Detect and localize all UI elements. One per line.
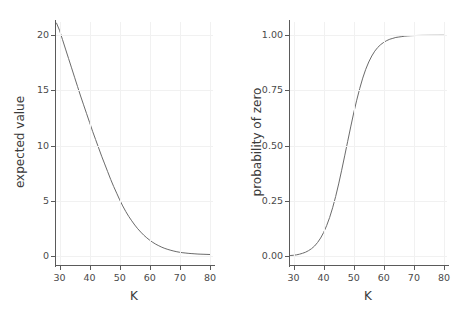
x-tick-mark: [120, 266, 121, 270]
x-tick-label: 50: [348, 273, 360, 283]
x-tick-label: 70: [174, 273, 186, 283]
y-tick-mark: [51, 146, 55, 147]
x-tick-label: 40: [84, 273, 96, 283]
grid-line-horizontal: [55, 90, 213, 91]
grid-line-horizontal: [289, 90, 447, 91]
grid-line-vertical: [294, 22, 295, 265]
plot-area-right: [289, 22, 447, 265]
y-axis-label-left: expected value: [14, 82, 26, 202]
grid-line-vertical: [150, 22, 151, 265]
x-tick-mark: [384, 266, 385, 270]
y-tick-mark: [285, 256, 289, 257]
x-axis-spine-left: [55, 265, 215, 266]
x-axis-label-left: K: [55, 290, 213, 302]
y-tick-label: 0: [43, 251, 49, 261]
grid-line-horizontal: [289, 35, 447, 36]
x-tick-label: 80: [204, 273, 216, 283]
grid-line-horizontal: [55, 256, 213, 257]
x-tick-label: 30: [53, 273, 65, 283]
x-tick-mark: [324, 266, 325, 270]
grid-line-vertical: [90, 22, 91, 265]
y-tick-mark: [285, 201, 289, 202]
x-axis-label-right: K: [289, 290, 447, 302]
y-tick-label: 1.00: [262, 31, 283, 41]
y-tick-label: 15: [37, 86, 49, 96]
x-tick-label: 80: [438, 273, 450, 283]
grid-line-horizontal: [289, 201, 447, 202]
grid-line-vertical: [180, 22, 181, 265]
x-tick-mark: [90, 266, 91, 270]
y-tick-mark: [285, 90, 289, 91]
grid-line-vertical: [384, 22, 385, 265]
chart-panel-expected-value: K expected value 30405060708005101520: [0, 0, 234, 317]
x-axis-spine-right: [289, 265, 449, 266]
grid-line-horizontal: [55, 35, 213, 36]
y-tick-mark: [51, 256, 55, 257]
x-tick-mark: [414, 266, 415, 270]
y-axis-spine-left: [55, 20, 56, 267]
probability-of-zero-curve: [289, 22, 447, 265]
grid-line-vertical: [414, 22, 415, 265]
x-tick-mark: [210, 266, 211, 270]
plot-area-left: [55, 22, 213, 265]
grid-line-vertical: [354, 22, 355, 265]
y-tick-label: 5: [43, 196, 49, 206]
x-tick-mark: [180, 266, 181, 270]
grid-line-horizontal: [289, 146, 447, 147]
y-tick-mark: [51, 90, 55, 91]
x-tick-label: 60: [144, 273, 156, 283]
grid-line-vertical: [210, 22, 211, 265]
grid-line-vertical: [444, 22, 445, 265]
x-tick-mark: [60, 266, 61, 270]
y-tick-mark: [285, 146, 289, 147]
y-tick-label: 0.75: [262, 86, 283, 96]
grid-line-horizontal: [55, 201, 213, 202]
expected-value-curve: [55, 22, 213, 265]
figure-canvas: K expected value 30405060708005101520 K …: [0, 0, 468, 317]
x-tick-label: 50: [114, 273, 126, 283]
y-tick-label: 0.00: [262, 251, 283, 261]
chart-panel-probability-of-zero: K probability of zero 3040506070800.000.…: [234, 0, 468, 317]
y-tick-mark: [285, 35, 289, 36]
y-tick-mark: [51, 201, 55, 202]
x-tick-mark: [150, 266, 151, 270]
grid-line-vertical: [324, 22, 325, 265]
y-tick-label: 20: [37, 31, 49, 41]
x-tick-mark: [294, 266, 295, 270]
grid-line-horizontal: [289, 256, 447, 257]
x-tick-label: 70: [408, 273, 420, 283]
y-axis-spine-right: [289, 20, 290, 267]
y-tick-label: 0.25: [262, 196, 283, 206]
y-tick-label: 0.50: [262, 141, 283, 151]
x-tick-mark: [444, 266, 445, 270]
grid-line-vertical: [120, 22, 121, 265]
x-tick-label: 40: [318, 273, 330, 283]
y-tick-label: 10: [37, 141, 49, 151]
x-tick-label: 60: [378, 273, 390, 283]
grid-line-vertical: [60, 22, 61, 265]
x-tick-label: 30: [287, 273, 299, 283]
grid-line-horizontal: [55, 146, 213, 147]
x-tick-mark: [354, 266, 355, 270]
y-tick-mark: [51, 35, 55, 36]
